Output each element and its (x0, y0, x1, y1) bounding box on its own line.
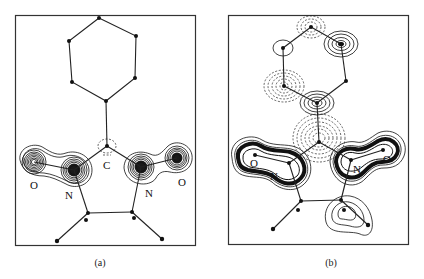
atom-label-n-left: N (270, 170, 278, 182)
panel-b-bonds (255, 27, 383, 229)
panel-a-caption: (a) (94, 257, 105, 269)
bottom-right-contour (325, 196, 372, 235)
panel-a-atoms (55, 16, 164, 243)
atom-label-o-right: O (383, 153, 391, 165)
panel-b-caption: (b) (325, 257, 337, 269)
panel-a: O N C N O (a) (16, 16, 196, 270)
atom-label-o-right: O (178, 176, 186, 188)
figure-canvas: O N C N O (a) (0, 0, 424, 279)
atom-label-o-left: O (30, 179, 38, 191)
panel-a-frame (16, 16, 196, 246)
atom-label-o-left: O (250, 157, 258, 169)
atom-label-n-left: N (65, 189, 73, 201)
atom-label-n-right: N (145, 187, 153, 199)
panel-a-bonds (34, 18, 177, 241)
panel-a-atom-labels: O N C N O (30, 159, 186, 201)
atom-label-n-right: N (353, 163, 361, 175)
atom-label-c-center: C (103, 159, 110, 171)
panel-b: O N N O (b) (229, 16, 409, 270)
